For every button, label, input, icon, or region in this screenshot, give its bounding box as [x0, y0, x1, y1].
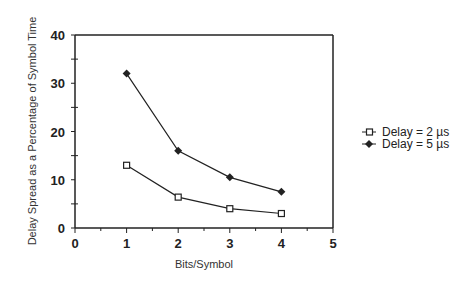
legend: Delay = 2 µs Delay = 5 µs — [362, 125, 449, 151]
y-axis-ticks: 010203040 — [51, 28, 78, 236]
x-tick-label: 5 — [329, 236, 336, 251]
square-marker-icon — [227, 206, 233, 212]
diamond-marker-icon — [277, 188, 285, 196]
x-axis-title: Bits/Symbol — [175, 258, 233, 270]
chart: 010203040 012345 Bits/Symbol Delay Sprea… — [0, 0, 475, 282]
legend-label: Delay = 5 µs — [382, 137, 449, 151]
data-series — [123, 70, 286, 217]
x-tick-label: 2 — [175, 236, 182, 251]
y-tick-label: 40 — [51, 28, 65, 43]
diamond-marker-icon — [226, 173, 234, 181]
y-tick-label: 20 — [51, 125, 65, 140]
y-tick-label: 10 — [51, 173, 65, 188]
x-axis-ticks: 012345 — [71, 228, 336, 251]
diamond-marker-icon — [365, 140, 373, 148]
square-marker-icon — [124, 162, 130, 168]
plot-frame — [75, 35, 333, 228]
y-tick-label: 30 — [51, 76, 65, 91]
series-line — [127, 74, 282, 192]
x-tick-label: 0 — [71, 236, 78, 251]
x-tick-label: 3 — [226, 236, 233, 251]
y-tick-label: 0 — [58, 221, 65, 236]
series-line — [127, 165, 282, 213]
square-marker-icon — [367, 129, 373, 135]
square-marker-icon — [175, 194, 181, 200]
x-tick-label: 4 — [278, 236, 286, 251]
diamond-marker-icon — [174, 147, 182, 155]
legend-item-delay-5: Delay = 5 µs — [362, 137, 449, 151]
square-marker-icon — [278, 211, 284, 217]
diamond-marker-icon — [123, 70, 131, 78]
y-axis-title: Delay Spread as a Percentage of Symbol T… — [26, 17, 38, 246]
x-tick-label: 1 — [123, 236, 130, 251]
